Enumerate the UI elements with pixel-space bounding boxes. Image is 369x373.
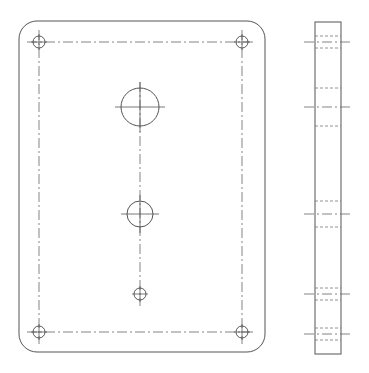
technical-drawing <box>0 0 369 373</box>
plate-outline <box>19 21 265 352</box>
side-outline <box>315 22 341 354</box>
side-view <box>304 22 352 354</box>
front-view <box>19 21 265 352</box>
